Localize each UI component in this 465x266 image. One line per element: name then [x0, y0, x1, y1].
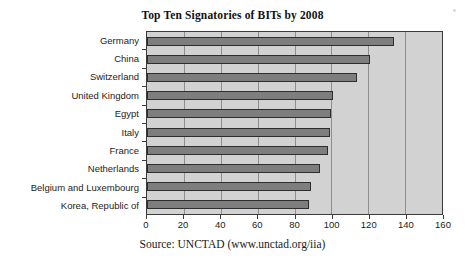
bar-slot [147, 141, 442, 159]
chart-figure: Top Ten Signatories of BITs by 2008 Germ… [0, 0, 465, 266]
x-axis-tick-label: 20 [178, 219, 189, 230]
y-axis-label-slot: China [0, 49, 143, 67]
bar-slot [147, 196, 442, 214]
source-note: Source: UNCTAD (www.unctad.org/iia) [0, 238, 465, 250]
bar-series [147, 32, 442, 214]
y-axis-label-slot: Belgium and Luxembourg [0, 178, 143, 196]
x-axis-tick-label: 160 [435, 219, 451, 230]
x-axis-tick-label: 120 [361, 219, 377, 230]
bar [147, 37, 394, 46]
bar [147, 182, 311, 191]
y-axis-label-slot: France [0, 141, 143, 159]
bar-slot [147, 68, 442, 86]
chart-title: Top Ten Signatories of BITs by 2008 [0, 9, 465, 21]
bar-slot [147, 87, 442, 105]
y-axis-label-slot: Egypt [0, 105, 143, 123]
bar [147, 200, 309, 209]
y-axis-label: Belgium and Luxembourg [31, 182, 143, 193]
y-axis-label-slot: Germany [0, 31, 143, 49]
x-axis-tick-label: 140 [398, 219, 414, 230]
bar [147, 146, 328, 155]
x-axis-tick-label: 100 [324, 219, 340, 230]
page-speck [453, 9, 456, 12]
y-axis-label-slot: Italy [0, 123, 143, 141]
bar [147, 128, 330, 137]
bar-slot [147, 32, 442, 50]
y-axis-label: China [114, 53, 143, 64]
y-axis-label: Egypt [115, 108, 143, 119]
bar-slot [147, 159, 442, 177]
bar-slot [147, 178, 442, 196]
y-axis-label: Germany [100, 35, 143, 46]
y-axis-label: Korea, Republic of [61, 200, 143, 211]
bar [147, 109, 331, 118]
y-axis-labels: GermanyChinaSwitzerlandUnited KingdomEgy… [0, 31, 143, 215]
bar [147, 164, 320, 173]
y-axis-label: Netherlands [88, 163, 143, 174]
x-axis-tick-label: 60 [252, 219, 263, 230]
bar [147, 91, 333, 100]
bar-slot [147, 105, 442, 123]
bar-slot [147, 50, 442, 68]
y-axis-label-slot: Korea, Republic of [0, 197, 143, 215]
x-axis-tick-label: 80 [289, 219, 300, 230]
x-axis-tick-label: 40 [215, 219, 226, 230]
bar [147, 73, 357, 82]
y-axis-label-slot: Switzerland [0, 68, 143, 86]
y-axis-label-slot: Netherlands [0, 160, 143, 178]
plot-area [146, 31, 443, 215]
y-axis-label-slot: United Kingdom [0, 86, 143, 104]
x-axis-tick-label: 0 [143, 219, 148, 230]
y-axis-label: Switzerland [90, 71, 143, 82]
bar-slot [147, 123, 442, 141]
y-axis-label: United Kingdom [71, 90, 143, 101]
x-axis-tick-labels: 020406080100120140160 [146, 219, 443, 233]
y-axis-label: France [109, 145, 143, 156]
y-axis-label: Italy [122, 127, 143, 138]
bar [147, 55, 370, 64]
